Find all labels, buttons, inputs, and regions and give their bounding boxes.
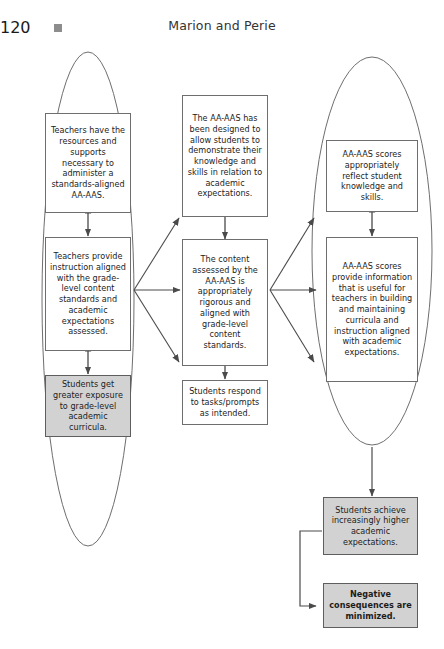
node-label: Negative consequences are minimized. [328,589,413,621]
node-label: Teachers have the resources and supports… [50,125,126,200]
node-negative-consequences[interactable]: Negative consequences are minimized. [323,583,418,628]
arrow-center-to-inform [270,290,314,362]
node-aaas-designed[interactable]: The AA-AAS has been designed to allow st… [182,95,268,217]
arrow-left-to-respond [134,290,179,362]
arrow-center-to-reflect [270,218,314,290]
node-label: Students achieve increasingly higher aca… [328,505,413,548]
node-label: The content assessed by the AA-AAS is ap… [187,254,263,351]
arrow-achieve-to-negative [300,531,322,606]
node-label: AA-AAS scores appropriately reflect stud… [331,149,413,203]
node-scores-inform[interactable]: AA-AAS scores provide information that i… [326,237,418,382]
node-teachers-instruction[interactable]: Teachers provide instruction aligned wit… [45,237,131,351]
node-label: The AA-AAS has been designed to allow st… [187,113,263,199]
node-students-achieve[interactable]: Students achieve increasingly higher aca… [323,497,418,555]
node-label: Students respond to tasks/prompts as int… [187,386,263,418]
node-students-respond[interactable]: Students respond to tasks/prompts as int… [182,380,268,425]
arrow-left-to-designed [134,218,179,290]
node-students-exposure[interactable]: Students get greater exposure to grade-l… [45,375,131,437]
node-label: Teachers provide instruction aligned wit… [50,251,126,337]
theory-of-action-diagram: Teachers have the resources and supports… [0,0,444,649]
node-content-assessed[interactable]: The content assessed by the AA-AAS is ap… [182,239,268,366]
node-label: Students get greater exposure to grade-l… [50,379,126,433]
node-scores-reflect[interactable]: AA-AAS scores appropriately reflect stud… [326,140,418,212]
node-label: AA-AAS scores provide information that i… [331,261,413,358]
node-teachers-resources[interactable]: Teachers have the resources and supports… [45,113,131,213]
